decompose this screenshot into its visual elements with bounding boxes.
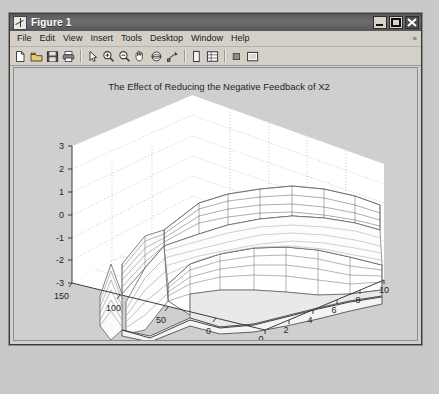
xtick-0: 0 xyxy=(206,326,211,336)
xtick-100: 100 xyxy=(106,303,121,313)
toolbar-separator xyxy=(184,50,186,62)
matlab-figure-icon xyxy=(13,16,27,30)
insert-colorbar-icon[interactable] xyxy=(189,49,204,64)
ztick-neg1: -1 xyxy=(56,233,64,243)
ztick-1: 1 xyxy=(59,187,64,197)
ztick-2: 2 xyxy=(59,164,64,174)
figure-window: Figure 1 File Edit View Insert xyxy=(9,13,422,345)
maximize-button[interactable] xyxy=(389,16,403,29)
zoom-out-icon[interactable] xyxy=(117,49,132,64)
plot-title: The Effect of Reducing the Negative Feed… xyxy=(108,81,330,92)
menu-item-edit[interactable]: Edit xyxy=(36,31,60,46)
menu-item-window[interactable]: Window xyxy=(187,31,227,46)
save-figure-icon[interactable] xyxy=(45,49,60,64)
rotate-3d-icon[interactable] xyxy=(149,49,164,64)
print-figure-icon[interactable] xyxy=(61,49,76,64)
ztick-neg2: -2 xyxy=(56,255,64,265)
ytick-8: 8 xyxy=(355,295,360,305)
ytick-0: 0 xyxy=(258,334,263,341)
menu-item-help[interactable]: Help xyxy=(227,31,254,46)
ytick-4: 4 xyxy=(307,315,312,325)
menu-item-view[interactable]: View xyxy=(59,31,86,46)
surface-plot[interactable]: 3 2 1 0 -1 -2 -3 150 100 50 0 0 2 4 6 8 … xyxy=(14,68,418,341)
menu-item-file[interactable]: File xyxy=(13,31,36,46)
toolbar xyxy=(10,47,421,66)
new-figure-icon[interactable] xyxy=(13,49,28,64)
menu-item-insert[interactable]: Insert xyxy=(86,31,117,46)
zoom-in-icon[interactable] xyxy=(101,49,116,64)
window-controls xyxy=(373,16,419,29)
title-bar[interactable]: Figure 1 xyxy=(10,14,421,31)
show-plot-tools-icon[interactable] xyxy=(245,49,260,64)
ztick-3: 3 xyxy=(59,141,64,151)
menu-overflow-chevron[interactable]: » xyxy=(413,34,421,43)
xtick-50: 50 xyxy=(156,315,166,325)
edit-plot-pointer-icon[interactable] xyxy=(85,49,100,64)
xtick-150: 150 xyxy=(54,291,69,301)
menu-item-tools[interactable]: Tools xyxy=(117,31,146,46)
minimize-button[interactable] xyxy=(373,16,387,29)
data-cursor-icon[interactable] xyxy=(165,49,180,64)
toolbar-separator xyxy=(224,50,226,62)
toolbar-separator xyxy=(80,50,82,62)
figure-caption xyxy=(0,378,439,394)
menu-bar: File Edit View Insert Tools Desktop Wind… xyxy=(10,31,421,47)
insert-legend-icon[interactable] xyxy=(205,49,220,64)
ytick-10: 10 xyxy=(379,285,389,295)
pan-hand-icon[interactable] xyxy=(133,49,148,64)
close-button[interactable] xyxy=(405,16,419,29)
ytick-2: 2 xyxy=(283,325,288,335)
figure-canvas[interactable]: 3 2 1 0 -1 -2 -3 150 100 50 0 0 2 4 6 8 … xyxy=(13,67,418,341)
ytick-6: 6 xyxy=(331,305,336,315)
open-file-icon[interactable] xyxy=(29,49,44,64)
window-title: Figure 1 xyxy=(31,17,72,28)
hide-plot-tools-icon[interactable] xyxy=(229,49,244,64)
ztick-0: 0 xyxy=(59,210,64,220)
menu-item-desktop[interactable]: Desktop xyxy=(146,31,187,46)
ztick-neg3: -3 xyxy=(56,278,64,288)
